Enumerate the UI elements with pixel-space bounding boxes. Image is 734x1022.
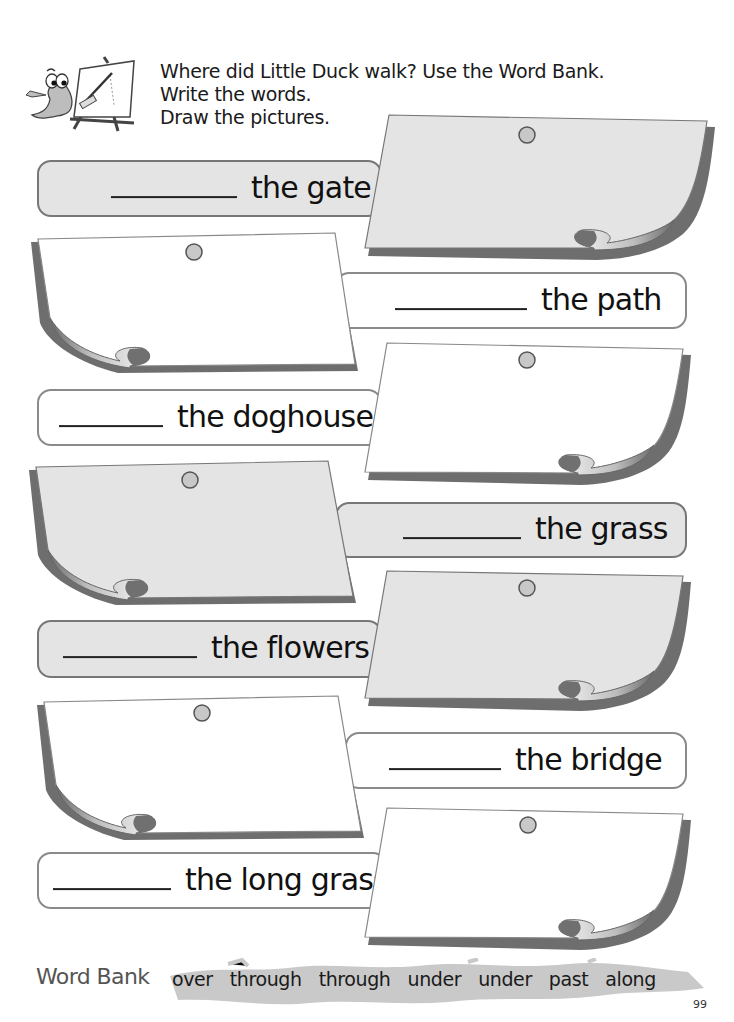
drawing-note-doghouse[interactable] — [362, 338, 694, 490]
word-bank-title: Word Bank — [36, 964, 149, 989]
pin-icon — [519, 580, 535, 596]
pin-icon — [186, 244, 202, 260]
pin-icon — [519, 352, 535, 368]
answer-blank[interactable] — [111, 195, 237, 198]
instruction-line-1: Where did Little Duck walk? Use the Word… — [160, 60, 604, 83]
pin-icon — [182, 472, 198, 488]
page-number: 99 — [693, 998, 707, 1011]
answer-row-gate: the gate — [37, 160, 382, 217]
phrase-label: the long grass — [185, 862, 388, 897]
drawing-note-bridge[interactable] — [36, 693, 372, 843]
word-bank-list: over through through under under past al… — [172, 968, 673, 990]
phrase-label: the grass — [535, 511, 668, 546]
phrase-label: the bridge — [515, 742, 662, 777]
word-bank-word[interactable]: under — [408, 968, 462, 990]
answer-blank[interactable] — [395, 307, 527, 310]
answer-blank[interactable] — [389, 767, 501, 770]
drawing-note-gate[interactable] — [362, 110, 718, 265]
answer-row-doghouse: the doghouse — [37, 389, 382, 446]
duck-at-easel-icon — [22, 55, 140, 135]
word-bank-word[interactable]: past — [549, 968, 588, 990]
phrase-label: the flowers — [211, 630, 369, 665]
phrase-label: the doghouse — [177, 399, 373, 434]
answer-blank[interactable] — [59, 424, 163, 427]
answer-row-bridge: the bridge — [345, 732, 687, 789]
answer-row-grass: the grass — [335, 502, 687, 558]
answer-blank[interactable] — [403, 536, 521, 539]
answer-row-flowers: the flowers — [37, 620, 382, 678]
answer-row-path: the path — [335, 272, 687, 329]
pin-icon — [519, 127, 535, 143]
pin-icon — [194, 705, 210, 721]
drawing-note-long-grass[interactable] — [362, 803, 694, 955]
drawing-note-path[interactable] — [30, 230, 366, 375]
word-bank: Word Bank over through through under und… — [36, 958, 696, 1008]
answer-row-long-grass: the long grass — [37, 852, 387, 909]
drawing-note-flowers[interactable] — [362, 568, 694, 716]
word-bank-word[interactable]: through — [319, 968, 391, 990]
drawing-note-grass[interactable] — [28, 458, 364, 608]
word-bank-word[interactable]: along — [605, 968, 656, 990]
phrase-label: the gate — [251, 170, 371, 205]
phrase-label: the path — [541, 282, 662, 317]
word-bank-word[interactable]: over — [172, 968, 213, 990]
answer-blank[interactable] — [53, 887, 171, 890]
word-bank-word[interactable]: under — [478, 968, 532, 990]
instruction-line-2: Write the words. — [160, 83, 604, 106]
answer-blank[interactable] — [63, 655, 197, 658]
word-bank-word[interactable]: through — [230, 968, 302, 990]
pin-icon — [520, 817, 536, 833]
